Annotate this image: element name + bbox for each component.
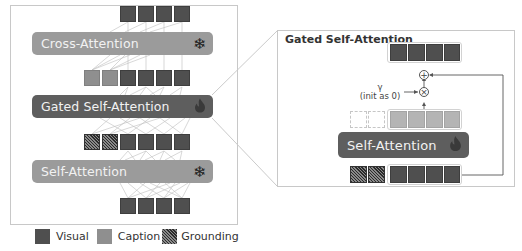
- visual-token: [138, 70, 154, 86]
- caption-token: [84, 70, 100, 86]
- legend-item-caption: Caption: [97, 229, 160, 244]
- grounding-swatch: [162, 229, 177, 244]
- fire-icon: [194, 98, 206, 115]
- output-visual-token: [408, 111, 425, 128]
- visual-token: [390, 44, 407, 61]
- snowflake-icon: ❄: [193, 164, 206, 179]
- fire-icon: [449, 136, 462, 154]
- visual-token: [444, 44, 460, 61]
- snowflake-icon: ❄: [193, 36, 206, 51]
- grounding-token: [350, 166, 367, 183]
- visual-token: [174, 134, 190, 150]
- layer-label: Self-Attention: [347, 138, 437, 153]
- multiply-operator-icon: ×: [419, 87, 429, 97]
- visual-token: [120, 6, 136, 22]
- gate-gamma-label: γ (init as 0): [352, 83, 408, 101]
- visual-token: [174, 70, 190, 86]
- visual-token: [174, 6, 190, 22]
- visual-token: [138, 134, 154, 150]
- visual-token: [390, 166, 407, 183]
- visual-token: [138, 198, 154, 214]
- visual-token: [138, 6, 154, 22]
- self-attention-layer: Self-Attention ❄: [32, 160, 213, 183]
- visual-token: [174, 198, 190, 214]
- layer-label: Gated Self-Attention: [41, 99, 170, 114]
- grounding-token: [368, 166, 385, 183]
- visual-token: [120, 70, 136, 86]
- caption-token: [102, 70, 118, 86]
- visual-token: [408, 166, 425, 183]
- legend-item-grounding: Grounding: [168, 229, 238, 244]
- empty-token-slot: [368, 111, 385, 128]
- visual-token: [156, 6, 172, 22]
- layer-label: Cross-Attention: [41, 36, 139, 51]
- caption-swatch: [97, 229, 112, 244]
- visual-token: [408, 44, 425, 61]
- visual-token: [426, 166, 443, 183]
- visual-token: [444, 166, 460, 183]
- visual-token: [156, 134, 172, 150]
- gated-self-attention-layer: Gated Self-Attention: [32, 95, 213, 118]
- visual-token: [120, 198, 136, 214]
- add-operator-icon: +: [419, 70, 429, 80]
- inner-self-attention-layer: Self-Attention: [338, 132, 469, 158]
- visual-swatch: [35, 229, 50, 244]
- grounding-token: [102, 134, 118, 150]
- grounding-token: [84, 134, 100, 150]
- visual-token: [120, 134, 136, 150]
- layer-label: Self-Attention: [41, 164, 127, 179]
- visual-token: [156, 70, 172, 86]
- output-visual-token: [390, 111, 407, 128]
- output-visual-token: [426, 111, 443, 128]
- output-visual-token: [444, 111, 460, 128]
- legend: Visual Caption Grounding: [35, 229, 247, 244]
- cross-attention-layer: Cross-Attention ❄: [32, 32, 213, 55]
- visual-token: [426, 44, 443, 61]
- visual-token: [156, 198, 172, 214]
- empty-token-slot: [350, 111, 367, 128]
- legend-item-visual: Visual: [35, 229, 89, 244]
